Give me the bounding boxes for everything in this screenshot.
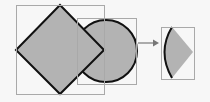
boolean-intersection-diagram	[0, 0, 210, 102]
